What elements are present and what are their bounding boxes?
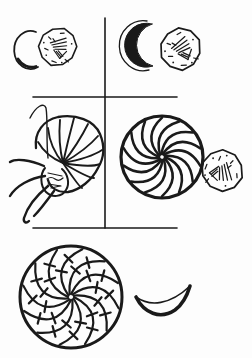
coin-top-left [36, 25, 80, 70]
coin-middle-right [198, 147, 246, 195]
open-crescent [14, 31, 38, 69]
figure-plate [0, 0, 252, 358]
octopus-tentacles [10, 160, 54, 223]
nautilus-octopus-whorl [10, 105, 103, 222]
crescent-moon [119, 21, 153, 71]
whirl-rosette [121, 116, 203, 198]
recumbent-crescent [136, 286, 190, 315]
plate-drawing [0, 0, 252, 358]
coin-top-right [155, 24, 205, 75]
segmented-whirl-rosette [17, 243, 125, 351]
